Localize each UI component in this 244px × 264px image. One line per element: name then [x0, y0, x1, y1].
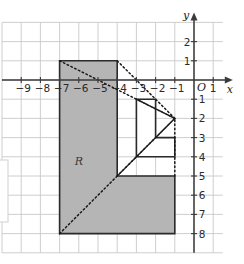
- y-tick-label: 4: [199, 151, 206, 163]
- y-tick-label: 2: [199, 112, 206, 124]
- y-tick-label: 6: [199, 189, 206, 201]
- x-tick-label: −1: [169, 82, 184, 94]
- y-tick-label: 2: [184, 36, 191, 48]
- y-tick-label: 1: [184, 55, 191, 67]
- x-tick-label: 1: [210, 82, 217, 94]
- x-tick-label: −2: [150, 82, 165, 94]
- region-label-r: R: [74, 155, 83, 168]
- image-shape: [136, 99, 174, 157]
- y-tick-label: 3: [199, 132, 206, 144]
- y-tick-label: 8: [199, 228, 206, 240]
- x-tick-label: −3: [131, 82, 146, 94]
- x-tick-label: −7: [54, 82, 69, 94]
- x-tick-label: −6: [73, 82, 89, 94]
- cropped-side-box: [0, 160, 8, 222]
- y-axis-title: y: [182, 9, 190, 22]
- x-tick-label: −8: [35, 82, 50, 94]
- x-tick-label: −9: [15, 82, 30, 94]
- coordinate-grid-figure: R −9−8−7−6−5−4−3−2−112112345678 xyO: [0, 0, 244, 264]
- y-tick-label: 7: [199, 208, 206, 220]
- y-tick-label: 1: [199, 93, 206, 105]
- cropped-side-box-group: [0, 160, 8, 222]
- graph-canvas: R −9−8−7−6−5−4−3−2−112112345678 xyO: [0, 0, 244, 264]
- y-tick-label: 5: [199, 170, 206, 182]
- y-axis-arrowhead: [191, 12, 198, 20]
- x-tick-label: −5: [92, 82, 107, 94]
- x-axis-title: x: [227, 83, 234, 96]
- x-tick-label: −4: [111, 82, 127, 94]
- origin-label: O: [197, 81, 206, 94]
